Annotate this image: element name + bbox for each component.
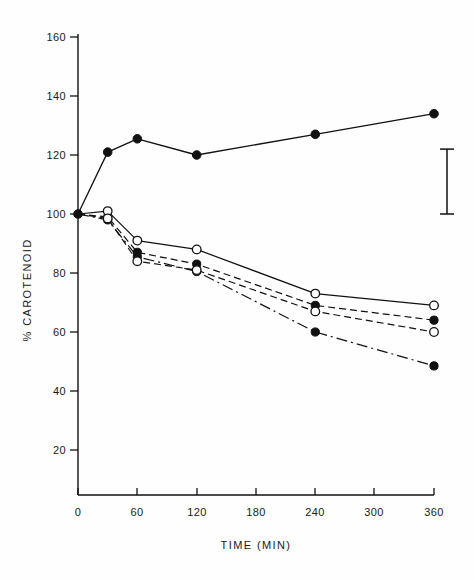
- series-2-line: [78, 211, 434, 305]
- x-tick-label-0: 0: [75, 506, 82, 518]
- y-tick-label-120: 120: [46, 149, 66, 161]
- y-axis-tick-labels: 160 140 120 100 80 60 40 20: [46, 31, 66, 456]
- y-tick-label-100: 100: [46, 208, 66, 220]
- data-point: [430, 362, 438, 370]
- x-tick-label-180: 180: [246, 506, 266, 518]
- data-point: [311, 130, 320, 139]
- series-1-markers: [74, 109, 439, 218]
- x-tick-label-120: 120: [187, 506, 207, 518]
- data-point: [192, 151, 201, 160]
- data-point: [103, 214, 112, 223]
- carotenoid-time-line-chart: 160 140 120 100 80 60 40 20 0 60 120 180…: [0, 0, 474, 580]
- data-point: [133, 236, 142, 245]
- data-point: [430, 301, 439, 310]
- series-5-line: [78, 214, 434, 366]
- data-point: [133, 257, 142, 266]
- data-point: [192, 245, 201, 254]
- series-5-markers: [104, 216, 439, 370]
- y-tick-label-40: 40: [53, 385, 66, 397]
- data-series-group: [74, 109, 439, 370]
- data-point: [192, 266, 201, 275]
- data-point: [311, 307, 320, 316]
- series-3-markers: [104, 213, 439, 325]
- y-tick-label-140: 140: [46, 90, 66, 102]
- data-point: [430, 328, 439, 337]
- y-tick-label-160: 160: [46, 31, 66, 43]
- data-point: [103, 148, 112, 157]
- axes: [78, 34, 434, 495]
- y-tick-label-20: 20: [53, 444, 66, 456]
- series-2-markers: [103, 207, 438, 310]
- data-point: [430, 109, 439, 118]
- y-axis-ticks: [70, 37, 78, 450]
- error-bar: [440, 149, 454, 214]
- x-tick-label-240: 240: [305, 506, 325, 518]
- x-tick-label-300: 300: [364, 506, 384, 518]
- x-tick-label-360: 360: [424, 506, 444, 518]
- x-axis-tick-labels: 0 60 120 180 240 300 360: [75, 506, 444, 518]
- y-tick-label-80: 80: [53, 267, 66, 279]
- y-axis-title: % CAROTENOID: [21, 239, 33, 342]
- data-point: [311, 289, 320, 298]
- x-axis-ticks: [78, 488, 434, 495]
- data-point: [311, 328, 319, 336]
- y-tick-label-60: 60: [53, 326, 66, 338]
- series-1-line: [78, 114, 434, 214]
- series-4-markers: [103, 214, 438, 336]
- data-point: [133, 135, 142, 144]
- figure-panel: 160 140 120 100 80 60 40 20 0 60 120 180…: [0, 0, 474, 580]
- x-tick-label-60: 60: [130, 506, 143, 518]
- series-4-line: [78, 214, 434, 332]
- series-3-line: [78, 214, 434, 320]
- data-point: [74, 210, 83, 219]
- x-axis-title: TIME (MIN): [221, 539, 292, 551]
- data-point: [430, 316, 438, 324]
